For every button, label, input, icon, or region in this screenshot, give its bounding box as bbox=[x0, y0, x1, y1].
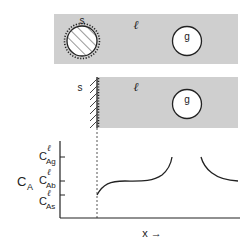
concentration-graph: C ℓ Ag C ℓ Ab C ℓ As C A x → bbox=[17, 128, 240, 239]
solid-label: s bbox=[78, 82, 83, 93]
gas-label: g bbox=[184, 94, 190, 105]
liquid-label: ℓ bbox=[134, 80, 139, 94]
svg-text:As: As bbox=[46, 202, 55, 211]
tick-label-Ag: C ℓ Ag bbox=[39, 143, 56, 166]
diagram-canvas: s ℓ g s ℓ g bbox=[0, 0, 247, 248]
svg-text:ℓ: ℓ bbox=[47, 188, 51, 198]
solid-wall bbox=[90, 77, 99, 128]
concentration-curve-right bbox=[201, 157, 238, 181]
x-axis-label: x → bbox=[142, 227, 162, 239]
gas-label: g bbox=[184, 31, 190, 42]
svg-text:ℓ: ℓ bbox=[47, 143, 51, 153]
solid-label: s bbox=[80, 15, 85, 26]
concentration-curve-left bbox=[97, 157, 172, 195]
y-ticks bbox=[60, 157, 65, 195]
tick-label-As: C ℓ As bbox=[39, 188, 55, 211]
svg-text:A: A bbox=[27, 182, 33, 192]
liquid-label: ℓ bbox=[134, 18, 139, 32]
liquid-region bbox=[97, 77, 238, 128]
top-panel: s ℓ g bbox=[54, 14, 238, 64]
svg-text:ℓ: ℓ bbox=[47, 167, 51, 177]
tick-label-Ab: C ℓ Ab bbox=[39, 167, 56, 190]
middle-panel: s ℓ g bbox=[78, 77, 239, 128]
svg-text:Ag: Ag bbox=[46, 157, 56, 166]
svg-text:C: C bbox=[17, 174, 26, 189]
y-axis-label: C A bbox=[17, 174, 33, 192]
